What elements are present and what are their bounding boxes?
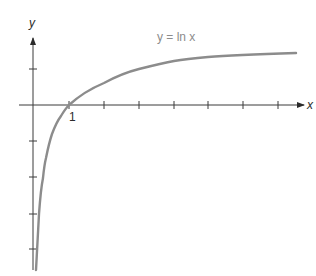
curve-label: y = ln x (157, 30, 195, 44)
x-axis-label: x (306, 98, 314, 112)
ln-chart: y x 1 y = ln x (0, 0, 316, 276)
x-tick-label-1: 1 (69, 110, 76, 124)
y-axis-label: y (28, 16, 36, 30)
ln-curve (36, 53, 296, 270)
